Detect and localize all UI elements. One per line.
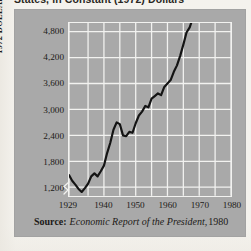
- y-axis-tick-labels: 4,8004,2003,6003,0002,4001,8001,200: [28, 22, 64, 197]
- plot-area: [68, 22, 232, 197]
- source-title: Economic Report of the President,: [67, 216, 208, 227]
- source-label: Source:: [34, 216, 67, 227]
- x-tick-label: 1950: [126, 200, 144, 210]
- y-tick-label: 3,000: [30, 105, 64, 115]
- y-tick-label: 1,200: [30, 183, 64, 193]
- x-tick-label: 1960: [158, 200, 176, 210]
- figure-caption-clipped: States, in Constant (1972) Dollars: [14, 0, 244, 5]
- series-line-real-gnp: [69, 23, 231, 196]
- x-tick-label: 1940: [94, 200, 112, 210]
- source-note: Source:Economic Report of the President,…: [34, 216, 228, 227]
- x-tick-label: 1980: [223, 200, 241, 210]
- y-tick-label: 1,800: [30, 157, 64, 167]
- y-tick-label: 4,800: [30, 26, 64, 36]
- source-year: 1980: [207, 216, 228, 227]
- figure-panel: 1972 DOLLARS (BILLIONS) 4,8004,2003,6003…: [14, 9, 246, 237]
- y-tick-label: 3,600: [30, 78, 64, 88]
- y-tick-label: 2,400: [30, 131, 64, 141]
- figure-page: States, in Constant (1972) Dollars 1972 …: [0, 0, 251, 251]
- series-path: [69, 23, 228, 192]
- x-axis-tick-labels: 192919401950196019701980: [68, 200, 238, 214]
- y-tick-label: 4,200: [30, 52, 64, 62]
- y-axis-title: 1972 DOLLARS (BILLIONS): [0, 0, 4, 81]
- x-tick-label: 1970: [191, 200, 209, 210]
- x-tick-label: 1929: [59, 200, 77, 210]
